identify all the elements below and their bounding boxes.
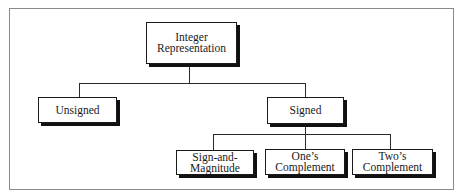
- node-label-line: Complement: [363, 162, 422, 173]
- node-signed: Signed: [267, 97, 344, 124]
- connector-to-twos-complement: [390, 134, 391, 149]
- connector-signed-down: [305, 125, 306, 149]
- node-label-line: Representation: [157, 43, 226, 54]
- node-label-line: Complement: [275, 162, 334, 173]
- node-sign-and-magnitude: Sign-and- Magnitude: [176, 150, 254, 175]
- node-label-line: Sign-and-: [192, 152, 237, 163]
- connector-to-signed: [305, 83, 306, 97]
- connector-level1-bar: [79, 83, 306, 84]
- node-label: Unsigned: [55, 105, 99, 116]
- node-integer-representation: Integer Representation: [146, 22, 237, 64]
- node-label: Signed: [290, 105, 322, 116]
- node-label-line: Magnitude: [190, 163, 240, 174]
- node-ones-complement: One’s Complement: [265, 149, 345, 175]
- node-unsigned: Unsigned: [38, 97, 117, 123]
- connector-level2-bar: [213, 134, 391, 135]
- connector-to-unsigned: [79, 83, 80, 97]
- connector-root-down: [189, 65, 190, 84]
- connector-to-sign-magnitude: [213, 134, 214, 150]
- node-twos-complement: Two’s Complement: [352, 149, 433, 175]
